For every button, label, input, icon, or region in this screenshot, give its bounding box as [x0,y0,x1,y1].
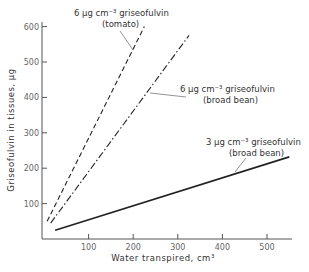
y-tick-label: 100 [24,200,39,209]
y-tick-label: 600 [24,23,39,32]
label-broadbean6-line1: 6 µg cm⁻³ griseofulvin [180,84,275,94]
label-broadbean6-line2: (broad bean) [203,95,258,105]
x-ticks: 100200300400500 [81,234,275,252]
x-tick-label: 100 [81,243,96,252]
series-lines [47,27,289,231]
label-tomato-line1: 6 µg cm⁻³ griseofulvin [74,8,169,18]
label-broadbean3-line1: 3 µg cm⁻³ griseofulvin [206,137,301,147]
y-tick-label: 300 [24,129,39,138]
series-line-0 [47,27,144,222]
label-broadbean3-line2: (broad bean) [229,148,284,158]
leader-tomato [120,31,133,50]
leader-broadbean-3 [235,158,246,172]
y-axis-label: Griseofulvin in tissues, µg [6,68,16,191]
x-tick-label: 500 [259,243,274,252]
chart-svg: 100200300400500600 100200300400500 6 µg … [0,0,309,272]
y-tick-label: 400 [24,93,39,102]
chart-figure: 100200300400500600 100200300400500 6 µg … [0,0,309,272]
x-tick-label: 200 [126,243,141,252]
label-tomato-line2: (tomato) [102,19,139,29]
series-line-2 [55,157,289,230]
y-tick-label: 500 [24,58,39,67]
y-ticks: 100200300400500600 [24,23,47,209]
x-tick-label: 400 [215,243,230,252]
x-tick-label: 300 [170,243,185,252]
y-tick-label: 200 [24,164,39,173]
x-axis-label: Water transpired, cm³ [111,253,215,263]
